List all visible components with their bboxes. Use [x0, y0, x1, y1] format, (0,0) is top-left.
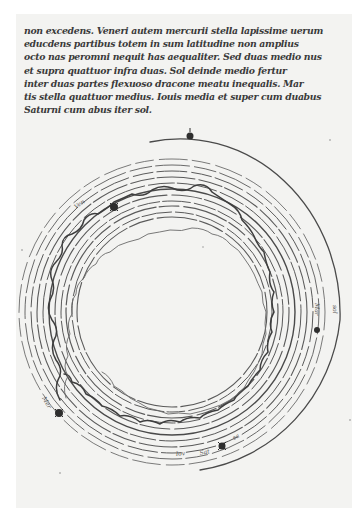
- svg-text:Iov: Iov: [174, 449, 186, 457]
- svg-text:sol: sol: [332, 305, 339, 314]
- mars-marker: [314, 327, 320, 333]
- svg-text:Mar: Mar: [314, 302, 321, 317]
- svg-text:Ven: Ven: [73, 198, 86, 210]
- sun-marker-top: [187, 133, 194, 140]
- svg-text:Sat: Sat: [199, 447, 211, 456]
- planetary-orbit-diagram: Ven Mer Iov Sat sa Mar sol: [0, 0, 364, 518]
